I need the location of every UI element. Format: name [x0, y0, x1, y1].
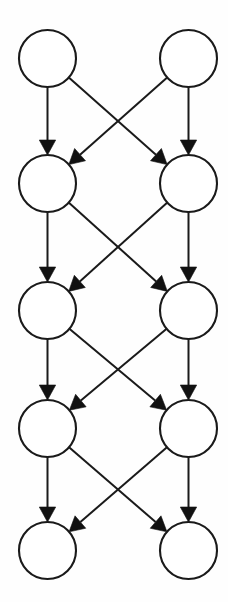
graph-node[interactable]	[19, 30, 76, 87]
arrowhead-icon	[150, 394, 167, 410]
nodes-group	[19, 30, 217, 579]
graph-edge	[180, 339, 196, 400]
arrowhead-icon	[39, 385, 55, 400]
node-circle[interactable]	[19, 282, 76, 339]
graph-node[interactable]	[160, 282, 217, 339]
diagram-canvas	[0, 0, 228, 602]
graph-edge	[39, 87, 55, 155]
node-circle[interactable]	[19, 522, 76, 579]
directed-graph	[0, 0, 228, 602]
edge-shaft	[69, 447, 156, 522]
graph-node[interactable]	[19, 282, 76, 339]
edge-shaft	[69, 329, 155, 401]
graph-node[interactable]	[160, 522, 217, 579]
node-circle[interactable]	[160, 30, 217, 87]
arrowhead-icon	[180, 507, 196, 522]
node-circle[interactable]	[19, 155, 76, 212]
arrowhead-icon	[180, 385, 196, 400]
graph-node[interactable]	[19, 400, 76, 457]
node-circle[interactable]	[19, 30, 76, 87]
arrowhead-icon	[150, 516, 167, 532]
edge-shaft	[80, 77, 167, 154]
node-circle[interactable]	[160, 400, 217, 457]
arrowhead-icon	[39, 140, 55, 155]
graph-node[interactable]	[160, 400, 217, 457]
node-circle[interactable]	[160, 282, 217, 339]
graph-edge	[180, 457, 196, 522]
graph-edge	[39, 339, 55, 400]
graph-node[interactable]	[160, 155, 217, 212]
node-circle[interactable]	[160, 155, 217, 212]
arrowhead-icon	[69, 394, 86, 410]
graph-edge	[180, 87, 196, 155]
graph-edge	[39, 457, 55, 522]
edge-shaft	[80, 203, 168, 282]
edge-shaft	[80, 447, 167, 522]
arrowhead-icon	[180, 267, 196, 282]
node-circle[interactable]	[19, 400, 76, 457]
graph-edge	[180, 212, 196, 282]
arrowhead-icon	[39, 507, 55, 522]
graph-node[interactable]	[19, 155, 76, 212]
edge-shaft	[69, 203, 157, 282]
graph-node[interactable]	[160, 30, 217, 87]
node-circle[interactable]	[160, 522, 217, 579]
arrowhead-icon	[69, 516, 86, 532]
arrowhead-icon	[180, 140, 196, 155]
graph-edge	[39, 212, 55, 282]
graph-node[interactable]	[19, 522, 76, 579]
arrowhead-icon	[39, 267, 55, 282]
edge-shaft	[81, 329, 167, 401]
edge-shaft	[69, 77, 156, 154]
